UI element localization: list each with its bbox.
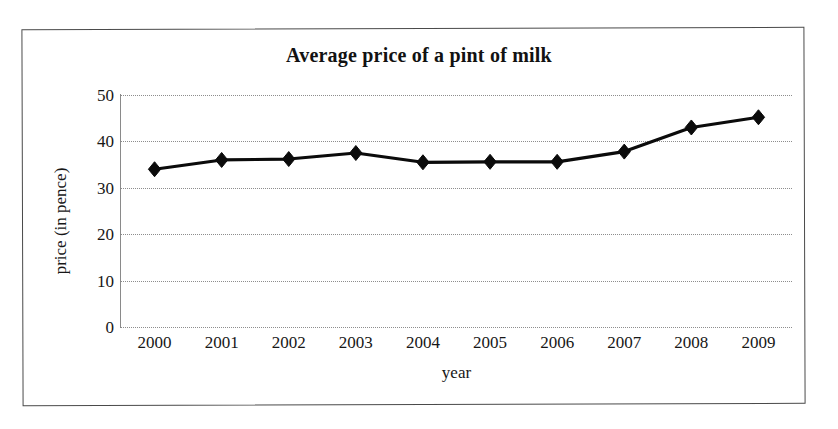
data-series-milk-price: [121, 95, 792, 327]
data-point-marker: [618, 144, 630, 159]
x-axis-title: year: [121, 363, 792, 383]
x-tick-label: 2005: [458, 334, 522, 353]
data-point-marker: [752, 110, 764, 125]
y-axis-title: price (in pence): [51, 141, 71, 301]
data-point-marker: [685, 120, 697, 135]
x-tick-label: 2002: [257, 334, 321, 353]
x-tick-label: 2001: [190, 334, 254, 353]
x-tick-label: 2007: [592, 334, 656, 353]
x-tick-label: 2003: [324, 334, 388, 353]
y-tick-label: 20: [74, 226, 114, 243]
y-tick-label: 40: [74, 133, 114, 150]
x-tick-label: 2006: [525, 334, 589, 353]
data-point-marker: [216, 152, 228, 167]
data-point-marker: [417, 155, 429, 170]
x-tick-label: 2008: [659, 334, 723, 353]
x-tick-label: 2004: [391, 334, 455, 353]
x-tick-label: 2009: [726, 334, 790, 353]
y-axis-tick-labels: 01020304050: [70, 95, 114, 327]
data-point-marker: [283, 152, 295, 167]
data-point-marker: [148, 162, 160, 177]
chart-title: Average price of a pint of milk: [0, 44, 838, 67]
data-point-marker: [551, 154, 563, 169]
x-tick-label: 2000: [123, 334, 187, 353]
data-point-marker: [484, 154, 496, 169]
y-tick-label: 50: [74, 87, 114, 104]
line-chart: Average price of a pint of milk price (i…: [0, 0, 838, 429]
data-line: [155, 117, 759, 169]
y-tick-label: 30: [74, 179, 114, 196]
y-tick-label: 0: [74, 319, 114, 336]
y-tick-label: 10: [74, 272, 114, 289]
gridline: [121, 327, 792, 328]
x-axis-tick-labels: 2000200120022003200420052006200720082009: [121, 334, 792, 360]
data-point-marker: [350, 146, 362, 161]
